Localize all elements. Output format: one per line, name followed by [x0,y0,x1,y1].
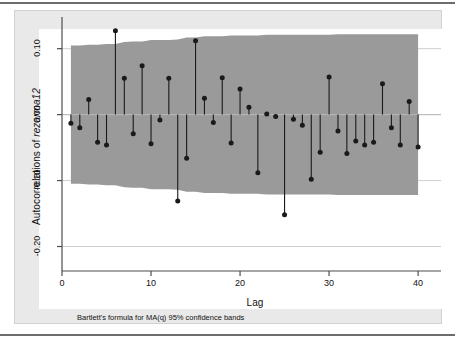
y-axis-title: Autocorrelations of rezarma12 [31,57,42,257]
y-tick-label: -0.10 [32,163,42,197]
chart-note: Bartlett's formula for MA(q) 95% confide… [77,313,244,322]
x-tick-label: 20 [225,278,255,288]
y-tick-label: -0.20 [32,229,42,263]
y-tick-label: 0.00 [32,97,42,131]
page-bottom-rule [0,334,455,336]
x-tick-label: 0 [47,278,77,288]
x-tick-label: 30 [314,278,344,288]
page-top-rule [0,2,455,4]
graph-region: Autocorrelations of rezarma12 Lag Bartle… [14,10,442,324]
x-tick-label: 10 [136,278,166,288]
x-axis-title: Lag [195,297,315,308]
x-tick-label: 40 [403,278,433,288]
page-canvas: Autocorrelations of rezarma12 Lag Bartle… [0,0,455,339]
y-tick-label: 0.10 [32,31,42,65]
acf-chart [15,11,441,323]
